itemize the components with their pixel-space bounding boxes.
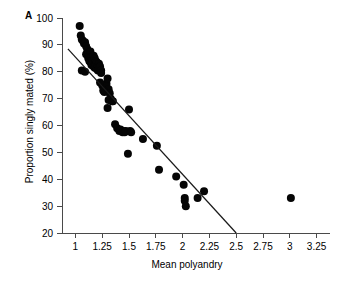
scatter-plot: 2030405060708090100 11.251.51.7522.252.5… (0, 0, 342, 286)
y-tick-label: 100 (36, 13, 53, 24)
regression-line (68, 49, 236, 233)
data-point (155, 166, 163, 174)
data-point (287, 194, 295, 202)
x-tick-label: 1.25 (92, 241, 112, 252)
y-tick-label: 50 (42, 147, 54, 158)
y-tick-label: 40 (42, 174, 54, 185)
data-point (76, 22, 84, 30)
figure-panel-a: A Proportion singly mated (%) Mean polya… (0, 0, 342, 286)
data-point (180, 181, 188, 189)
data-points (76, 22, 295, 210)
data-point (124, 150, 132, 158)
data-point (97, 69, 105, 77)
data-point (104, 104, 112, 112)
y-tick-label: 80 (42, 66, 54, 77)
x-tick-label: 3.25 (307, 241, 327, 252)
x-tick-label: 1.5 (122, 241, 136, 252)
y-tick-label: 70 (42, 93, 54, 104)
x-tick-label: 2.5 (229, 241, 243, 252)
y-tick-label: 90 (42, 39, 54, 50)
data-point (96, 79, 104, 87)
y-axis-ticks: 2030405060708090100 (36, 13, 62, 239)
x-tick-label: 2.25 (200, 241, 220, 252)
x-tick-label: 1 (73, 241, 79, 252)
data-point (194, 194, 202, 202)
data-point (81, 68, 89, 76)
y-tick-label: 60 (42, 120, 54, 131)
x-tick-label: 3 (287, 241, 293, 252)
x-tick-label: 1.75 (146, 241, 166, 252)
x-tick-label: 2 (180, 241, 186, 252)
x-tick-label: 2.75 (253, 241, 273, 252)
y-tick-label: 20 (42, 228, 54, 239)
data-point (127, 128, 135, 136)
data-point (182, 202, 190, 210)
data-point (172, 173, 180, 181)
data-point (139, 135, 147, 143)
y-tick-label: 30 (42, 201, 54, 212)
data-point (104, 74, 112, 82)
x-axis-ticks: 11.251.51.7522.252.52.7533.25 (73, 233, 327, 252)
